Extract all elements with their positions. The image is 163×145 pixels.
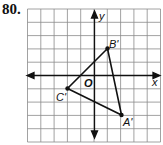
- y-axis-arrow-up: [92, 11, 98, 18]
- x-axis-label: x: [151, 76, 158, 88]
- axes: [27, 11, 160, 138]
- label-c-prime: C': [56, 91, 67, 103]
- x-axis-arrow-left: [27, 73, 34, 79]
- coordinate-graph: y x O A' B' C': [0, 0, 163, 145]
- origin-label: O: [84, 77, 93, 89]
- label-a-prime: A': [122, 116, 133, 128]
- label-b-prime: B': [109, 38, 119, 50]
- y-axis-label: y: [98, 10, 106, 22]
- y-axis-arrow-down: [92, 131, 98, 138]
